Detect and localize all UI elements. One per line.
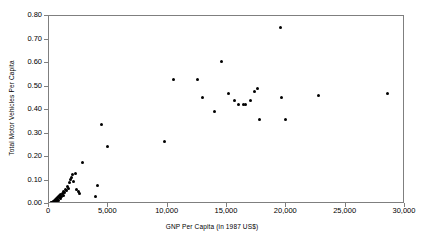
y-tick-mark [44,133,48,134]
scatter-chart-figure: 0.000.100.200.300.400.500.600.700.80 05,… [0,0,424,245]
x-tick-mark [404,203,405,207]
x-tick-mark [107,203,108,207]
y-tick-label: 0.00 [8,199,42,207]
x-tick-label: 20,000 [260,207,310,215]
x-tick-label: 0 [23,207,73,215]
x-tick-mark [345,203,346,207]
x-tick-mark [167,203,168,207]
y-tick-mark [44,156,48,157]
x-tick-label: 10,000 [142,207,192,215]
y-tick-label: 0.80 [8,11,42,19]
x-tick-mark [285,203,286,207]
y-tick-mark [44,62,48,63]
x-tick-label: 25,000 [320,207,370,215]
x-tick-label: 30,000 [379,207,424,215]
x-tick-mark [226,203,227,207]
x-tick-label: 15,000 [201,207,251,215]
x-axis-title: GNP Per Capita (in 1987 US$) [0,223,424,231]
x-tick-label: 5,000 [82,207,132,215]
y-axis-title: Total Motor Vehicles Per Capita [8,38,16,178]
x-tick-mark [48,203,49,207]
y-tick-mark [44,180,48,181]
y-tick-mark [44,86,48,87]
y-tick-mark [44,15,48,16]
y-tick-mark [44,109,48,110]
y-tick-mark [44,39,48,40]
